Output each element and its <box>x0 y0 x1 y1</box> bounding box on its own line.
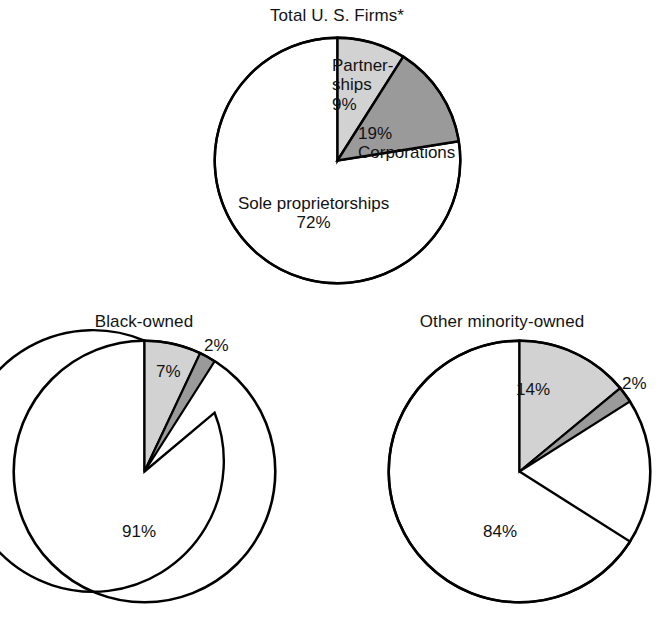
label-partnerships-line2: ships <box>332 75 372 94</box>
label-sole-value: 72% <box>297 213 331 232</box>
label-partnerships-line1: Partner- <box>332 56 393 75</box>
label-other-light-value: 14% <box>516 380 550 399</box>
chart-black-owned: Black-owned 7% 2% 91% <box>0 300 332 618</box>
label-other-dark-value: 2% <box>622 374 647 393</box>
label-sole-name: Sole proprietorships <box>238 194 389 213</box>
chart-title-other-minority-owned: Other minority-owned <box>377 312 627 332</box>
label-partnerships: Partner- ships 9% <box>332 56 416 114</box>
label-other-white-value: 84% <box>483 522 517 541</box>
chart-other-minority-owned: Other minority-owned 14% 2% 84% <box>332 300 665 618</box>
label-black-light-value: 7% <box>156 362 181 381</box>
label-black-white-value: 91% <box>122 522 156 541</box>
label-black-dark-value: 2% <box>204 336 229 355</box>
chart-title-black-owned: Black-owned <box>44 312 244 332</box>
chart-title-total-us-firms: Total U. S. Firms* <box>182 6 492 26</box>
label-corporations-name: Corporations <box>358 143 455 162</box>
pie-chart-figure: Total U. S. Firms* Partner- ships 9% 19%… <box>0 0 665 618</box>
chart-total-us-firms: Total U. S. Firms* Partner- ships 9% 19%… <box>0 0 665 300</box>
label-corporations-value: 19% <box>358 124 392 143</box>
pie-black-owned <box>13 340 276 603</box>
label-sole-proprietorships: Sole proprietorships 72% <box>238 194 389 232</box>
label-corporations: 19% Corporations <box>358 124 455 162</box>
label-partnerships-value: 9% <box>332 95 357 114</box>
